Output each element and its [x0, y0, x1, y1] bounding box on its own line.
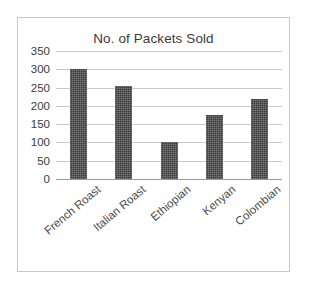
bar — [70, 69, 87, 179]
y-axis-tick-label: 100 — [31, 136, 50, 148]
bar-series — [56, 51, 282, 179]
chart-card: No. of Packets Sold 05010015020025030035… — [17, 17, 290, 272]
x-axis-category-label: Kenyan — [200, 183, 238, 217]
gridline — [56, 179, 282, 180]
bar — [251, 99, 268, 179]
x-axis-category-label: Colombian — [233, 183, 283, 228]
bar — [115, 86, 132, 179]
y-axis-tick-label: 200 — [31, 100, 50, 112]
y-axis-tick-label: 0 — [44, 173, 50, 185]
bar — [206, 115, 223, 179]
plot-area: 050100150200250300350 — [56, 51, 282, 179]
x-axis-category-label: French Roast — [42, 183, 103, 237]
y-axis-tick-label: 50 — [37, 155, 50, 167]
chart-title: No. of Packets Sold — [18, 31, 289, 46]
y-axis-tick-label: 150 — [31, 118, 50, 130]
y-axis-tick-label: 350 — [31, 45, 50, 57]
bar — [161, 142, 178, 179]
y-axis-tick-label: 250 — [31, 82, 50, 94]
x-axis-category-label: Ethiopian — [148, 183, 192, 223]
x-axis-category-labels: French RoastItalian RoastEthiopianKenyan… — [56, 181, 282, 261]
y-axis-tick-label: 300 — [31, 63, 50, 75]
